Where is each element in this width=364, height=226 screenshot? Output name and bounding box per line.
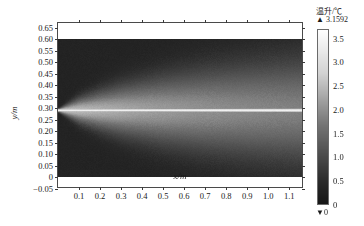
y-axis-tick	[55, 166, 58, 167]
y-axis-tick-label: −0.05	[33, 185, 53, 194]
colorbar-tick-label: 1.0	[333, 153, 344, 162]
y-axis-tick-label: 0.15	[38, 139, 53, 148]
colorbar-tick-label: 0.5	[333, 177, 344, 186]
y-axis-tick	[55, 51, 58, 52]
y-axis-tick-right	[302, 85, 305, 86]
x-axis-tick	[289, 187, 290, 190]
y-axis-tick-right	[302, 74, 305, 75]
x-axis-tick	[79, 187, 80, 190]
y-axis-tick-right	[302, 177, 305, 178]
y-axis-tick-right	[302, 28, 305, 29]
y-axis-tick-right	[302, 97, 305, 98]
colorbar-canvas	[318, 30, 328, 204]
y-axis-tick-label: 0.50	[38, 58, 53, 67]
y-axis-tick-label: 0.55	[38, 46, 53, 55]
x-axis-tick-label: 0.8	[221, 192, 232, 201]
colorbar-tick-label: 3.0	[333, 58, 344, 67]
x-axis-tick-label: 0.1	[74, 192, 85, 201]
x-axis-tick-label: 0.4	[137, 192, 148, 201]
y-axis-tick	[55, 39, 58, 40]
y-axis-tick-right	[302, 166, 305, 167]
y-axis-tick	[55, 97, 58, 98]
x-axis-tick	[205, 187, 206, 190]
y-axis-tick	[55, 143, 58, 144]
x-axis-tick-top	[205, 20, 206, 23]
x-axis-tick	[184, 187, 185, 190]
y-axis-tick	[55, 108, 58, 109]
x-axis-tick-label: 1.0	[263, 192, 274, 201]
y-axis-tick-label: 0.40	[38, 81, 53, 90]
x-axis-tick-top	[100, 20, 101, 23]
x-axis-tick	[247, 187, 248, 190]
y-axis-tick	[55, 189, 58, 190]
x-axis-tick-label: 1.1	[284, 192, 295, 201]
y-axis-tick	[55, 85, 58, 86]
y-axis-tick-label: 0	[49, 173, 53, 182]
y-axis-tick-right	[302, 108, 305, 109]
x-axis-tick	[163, 187, 164, 190]
heatmap-canvas	[58, 39, 302, 177]
y-axis-tick-label: 0.05	[38, 162, 53, 171]
y-axis-tick-label: 0.30	[38, 104, 53, 113]
x-axis-tick-top	[79, 20, 80, 23]
x-axis-label: x/m	[174, 171, 187, 181]
y-axis-tick-right	[302, 154, 305, 155]
y-axis-tick	[55, 120, 58, 121]
x-axis-tick-top	[142, 20, 143, 23]
y-axis-tick	[55, 74, 58, 75]
y-axis-tick	[55, 28, 58, 29]
colorbar: 温升/℃ ▲ 3.1592 ▼0 3.53.02.52.01.51.00.50	[314, 5, 364, 221]
x-axis-tick	[268, 187, 269, 190]
y-axis-tick-label: 0.45	[38, 69, 53, 78]
x-axis-tick-label: 0.3	[116, 192, 127, 201]
y-axis-tick-right	[302, 189, 305, 190]
y-axis-tick-right	[302, 131, 305, 132]
colorbar-tick-label: 0	[333, 201, 337, 210]
y-axis-tick	[55, 62, 58, 63]
x-axis-tick-top	[163, 20, 164, 23]
y-axis-tick	[55, 154, 58, 155]
colorbar-tick-label: 2.0	[333, 106, 344, 115]
y-axis-label: y/m	[9, 107, 19, 120]
x-axis-tick	[226, 187, 227, 190]
colorbar-tick-label: 1.5	[333, 129, 344, 138]
x-axis-tick-label: 0.7	[200, 192, 211, 201]
heatmap-raster	[58, 39, 302, 177]
y-axis-tick-label: 0.60	[38, 35, 53, 44]
x-axis-tick	[100, 187, 101, 190]
y-axis-tick-label: 0.10	[38, 150, 53, 159]
x-axis-tick-top	[289, 20, 290, 23]
y-axis-tick-right	[302, 39, 305, 40]
y-axis-tick-label: 0.35	[38, 93, 53, 102]
plot-area: −0.0500.050.100.150.200.250.300.350.400.…	[57, 22, 303, 188]
x-axis-tick-top	[121, 20, 122, 23]
colorbar-tick-label: 2.5	[333, 82, 344, 91]
x-axis-tick-top	[247, 20, 248, 23]
y-axis-tick-label: 0.65	[38, 23, 53, 32]
x-axis-tick-label: 0.2	[95, 192, 106, 201]
x-axis-tick-top	[226, 20, 227, 23]
colorbar-min-value: ▼0	[316, 208, 328, 217]
y-axis-tick-right	[302, 62, 305, 63]
x-axis-tick-label: 0.6	[179, 192, 190, 201]
x-axis-tick-top	[268, 20, 269, 23]
colorbar-tick-label: 3.5	[333, 34, 344, 43]
y-axis-tick-label: 0.20	[38, 127, 53, 136]
colorbar-gradient	[317, 29, 329, 205]
x-axis-tick	[142, 187, 143, 190]
colorbar-max-value: ▲ 3.1592	[316, 15, 348, 24]
x-axis-tick	[121, 187, 122, 190]
y-axis-tick	[55, 131, 58, 132]
y-axis-tick-right	[302, 51, 305, 52]
x-axis-tick-label: 0.5	[158, 192, 169, 201]
x-axis-tick-top	[184, 20, 185, 23]
y-axis-tick-label: 0.25	[38, 116, 53, 125]
heatmap-figure: y/m −0.0500.050.100.150.200.250.300.350.…	[0, 0, 364, 226]
y-axis-tick-right	[302, 143, 305, 144]
x-axis-tick-label: 0.9	[242, 192, 253, 201]
y-axis-tick	[55, 177, 58, 178]
y-axis-tick-right	[302, 120, 305, 121]
